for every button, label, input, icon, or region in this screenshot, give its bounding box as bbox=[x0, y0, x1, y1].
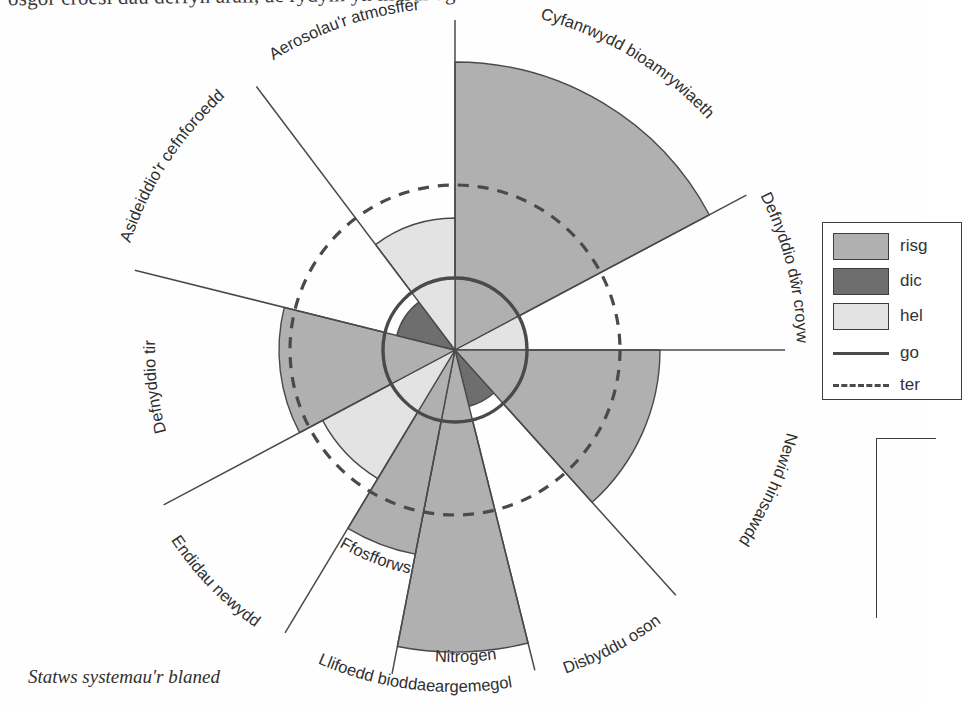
legend-box: risg dic hel go ter bbox=[822, 222, 962, 400]
legend-label-uncertainty: ter bbox=[900, 375, 920, 395]
axis-label-2: Asideiddio'r cefnforoedd bbox=[116, 86, 227, 245]
legend-swatch-highrisk bbox=[833, 268, 889, 295]
legend-row-uncertainty: ter bbox=[833, 370, 920, 400]
legend-swatch-risk bbox=[833, 233, 889, 260]
legend-row-boundary: go bbox=[833, 338, 919, 368]
axis-label-6: Nitrogen bbox=[435, 644, 498, 665]
legend-label-safe: hel bbox=[900, 306, 923, 326]
legend-row-highrisk: dic bbox=[833, 266, 922, 296]
figure-caption: Statws systemau'r blaned bbox=[28, 666, 220, 688]
wedge-0 bbox=[455, 62, 709, 350]
axis-label-9: Newid hinsawdd bbox=[736, 432, 802, 550]
legend-swatch-safe bbox=[833, 303, 889, 330]
axis-label-10: Defnyddio dŵr croyw bbox=[757, 189, 811, 343]
axis-label-3: Defnyddio tir bbox=[140, 339, 169, 435]
spoke-9 bbox=[256, 86, 410, 290]
axis-label-4: Endidau newydd bbox=[168, 532, 264, 630]
page-fragment-box bbox=[876, 438, 936, 618]
axis-label-0: Aerosolau'r atmosffer bbox=[266, 0, 421, 63]
legend-label-risk: risg bbox=[900, 236, 927, 256]
legend-row-risk: risg bbox=[833, 231, 927, 261]
axis-label-8: Disbyddu oson bbox=[560, 611, 663, 677]
legend-line-dashed-icon bbox=[833, 384, 889, 387]
spoke-8 bbox=[135, 270, 383, 332]
legend-row-safe: hel bbox=[833, 301, 923, 331]
legend-label-boundary: go bbox=[900, 343, 919, 363]
legend-label-highrisk: dic bbox=[900, 271, 922, 291]
legend-line-solid-icon bbox=[833, 352, 889, 355]
wedge-group bbox=[279, 62, 709, 652]
